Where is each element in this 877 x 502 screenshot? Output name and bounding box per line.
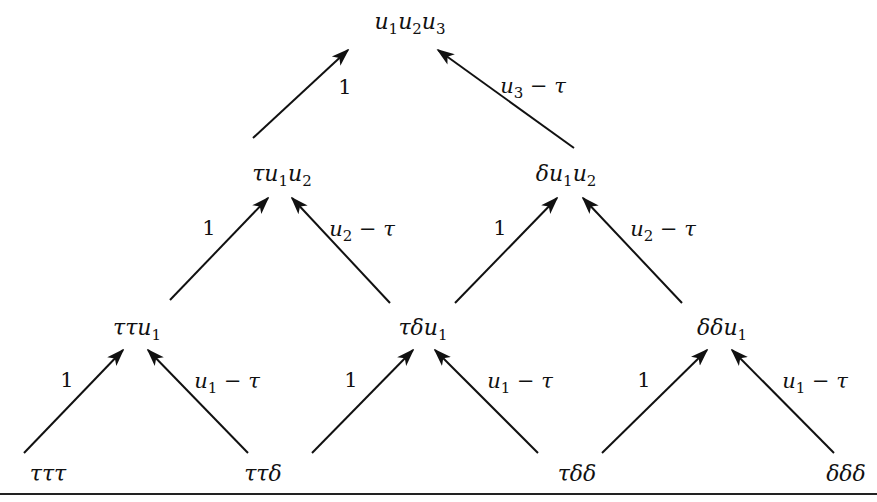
edge-label-one: 1 — [60, 370, 73, 391]
edge-arrow — [732, 350, 834, 453]
node-tau-tau-tau: τττ — [30, 463, 67, 485]
edge-arrow — [170, 198, 268, 300]
node-tau-tau-u1: ττu1 — [113, 317, 161, 343]
edge-arrow — [292, 198, 390, 303]
node-tau-tau-delta: ττδ — [244, 463, 282, 485]
edge-label-u1-minus-tau: u1 − τ — [194, 371, 260, 396]
edge-arrow — [312, 350, 413, 453]
edge-arrow — [455, 198, 557, 303]
node-u1u2u3: u1u2u3 — [374, 11, 445, 37]
edge-label-one: 1 — [493, 218, 506, 239]
tree-diagram: u1u2u3 τu1u2 δu1u2 ττu1 τδu1 δδu1 τττ ττ… — [0, 0, 877, 502]
edge-label-u3-minus-tau: u3 − τ — [500, 76, 566, 101]
edge-label-one: 1 — [344, 370, 357, 391]
edge-label-one: 1 — [637, 370, 650, 391]
edge-label-u1-minus-tau: u1 − τ — [487, 371, 553, 396]
edge-arrow — [253, 50, 348, 138]
node-tau-u1u2: τu1u2 — [252, 163, 312, 189]
edge-label-one: 1 — [202, 218, 215, 239]
edge-arrow — [24, 350, 123, 453]
node-tau-delta-delta: τδδ — [558, 463, 597, 485]
edge-label-one: 1 — [338, 77, 351, 98]
edge-arrow — [583, 198, 682, 303]
node-delta-u1u2: δu1u2 — [536, 163, 597, 189]
edge-layer — [0, 0, 877, 502]
edge-label-u1-minus-tau: u1 − τ — [782, 371, 848, 396]
node-tau-delta-u1: τδu1 — [398, 317, 447, 343]
edge-label-u2-minus-tau: u2 − τ — [630, 219, 696, 244]
edge-arrow — [435, 350, 538, 453]
node-delta-delta-u1: δδu1 — [697, 317, 747, 343]
bottom-rule — [0, 493, 877, 495]
edge-arrow — [148, 350, 248, 453]
edge-arrow — [602, 350, 707, 453]
edge-label-u2-minus-tau: u2 − τ — [329, 219, 395, 244]
node-delta-delta-delta: δδδ — [826, 463, 866, 485]
